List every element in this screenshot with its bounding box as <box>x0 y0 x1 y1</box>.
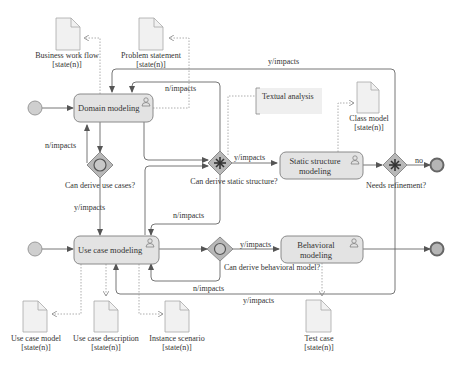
doc-problem-statement[interactable]: Problem statement [state(n)] <box>121 18 182 69</box>
start-event-usecase[interactable] <box>28 242 42 256</box>
doc-state: [state(n)] <box>354 123 384 132</box>
task-behavioral-modeling[interactable]: Behavioral modeling <box>281 236 363 263</box>
doc-name: Use case description <box>73 334 139 343</box>
doc-instance-scenario[interactable]: Instance scenario [state(n)] <box>149 301 204 352</box>
annotation-textual-analysis[interactable]: Textual analysis <box>256 88 322 114</box>
flow-label-left-y-impacts: y/impacts <box>74 203 105 212</box>
doc-name: Business work flow <box>35 51 99 60</box>
task-domain-modeling[interactable]: Domain modeling <box>74 94 153 122</box>
doc-use-case-model[interactable]: Use case model [state(n)] <box>11 301 62 352</box>
assoc-gw-static-textual <box>228 96 256 155</box>
doc-test-case[interactable]: Test case [state(n)] <box>304 300 334 352</box>
assoc-domain-business <box>84 38 100 94</box>
assoc-usecase-model <box>52 264 81 314</box>
task-static-structure-modeling[interactable]: Static structure modeling <box>280 152 363 179</box>
doc-state: [state(n)] <box>52 60 82 69</box>
end-event-refinement[interactable] <box>431 159 444 172</box>
gateway-label: Can derive behavioral model? <box>224 263 321 272</box>
task-label-line2: modeling <box>299 166 332 176</box>
flow-label-static-y-impacts: y/impacts <box>234 153 265 162</box>
flow-label-no: no <box>415 156 423 165</box>
gateway-label: Needs refinement? <box>366 181 427 190</box>
flow-domain-to-gw-static <box>144 118 208 160</box>
task-label-line1: Behavioral <box>297 240 335 250</box>
flow-label-top-y-impacts: y/impacts <box>268 57 299 66</box>
end-event-behavioral[interactable] <box>431 243 444 256</box>
flow-label-mid-n-impacts: n/impacts <box>173 211 204 220</box>
doc-name: Problem statement <box>121 51 182 60</box>
task-label-line2: modeling <box>300 250 333 260</box>
task-use-case-modeling[interactable]: Use case modeling <box>74 236 159 264</box>
doc-state: [state(n)] <box>91 343 121 352</box>
doc-state: [state(n)] <box>136 60 166 69</box>
flow-label-bottom-y-impacts: y/impacts <box>243 296 274 305</box>
flow-gw-behav-to-usecase-n <box>151 261 220 281</box>
gateway-label: Can derive use cases? <box>65 181 135 190</box>
doc-name: Test case <box>305 334 334 343</box>
doc-state: [state(n)] <box>21 343 51 352</box>
flow-label-left-n-impacts: n/impacts <box>45 141 76 150</box>
doc-state: [state(n)] <box>304 343 334 352</box>
assoc-static-classmodel <box>338 103 354 152</box>
start-event-domain[interactable] <box>28 101 42 115</box>
doc-class-model[interactable]: Class model [state(n)] <box>349 82 389 132</box>
doc-state: [state(n)] <box>162 343 192 352</box>
annotation-text: Textual analysis <box>262 92 314 101</box>
task-label: Use case modeling <box>78 245 143 255</box>
process-diagram: Domain modeling Use case modeling Static… <box>0 0 466 372</box>
gateway-label: Can derive static structure? <box>190 177 278 186</box>
doc-business-work-flow[interactable]: Business work flow [state(n)] <box>35 18 99 69</box>
task-label-line1: Static structure <box>289 156 340 166</box>
task-label: Domain modeling <box>78 103 140 113</box>
event-based-gateway-icon <box>215 244 226 255</box>
flow-label-top-n-impacts: n/impacts <box>165 84 196 93</box>
flow-label-behav-y-impacts: y/impacts <box>240 240 271 249</box>
gateway-can-derive-use-cases[interactable]: Can derive use cases? <box>65 152 135 190</box>
doc-name: Class model <box>349 114 389 123</box>
doc-name: Instance scenario <box>149 334 204 343</box>
flow-label-bottom-n-impacts: n/impacts <box>193 284 224 293</box>
doc-use-case-description[interactable]: Use case description [state(n)] <box>73 301 139 352</box>
doc-name: Use case model <box>11 334 62 343</box>
event-based-gateway-icon <box>94 159 106 171</box>
